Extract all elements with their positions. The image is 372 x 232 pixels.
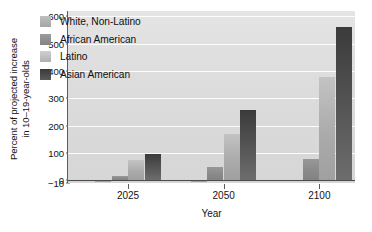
y-axis-title: Percent of projected increase in 10–19-y… [0, 0, 40, 195]
gridline [68, 98, 355, 99]
gridline [68, 126, 355, 127]
x-axis-tick-label: 2100 [294, 190, 344, 201]
y-axis-tick-label: 100 [36, 147, 64, 158]
x-axis-tick-mark [319, 184, 320, 189]
legend-label: Latino [60, 51, 87, 62]
legend-swatch-icon [40, 34, 51, 45]
y-axis-tick-label: −10 [36, 178, 64, 189]
y-axis-tick-label: 300 [36, 93, 64, 104]
legend-swatch-icon [40, 69, 51, 80]
y-axis-title-line-2: in 10–19-year-olds [20, 60, 32, 138]
bar-chart-figure: Percent of projected increase in 10–19-y… [0, 0, 372, 232]
y-axis-tick-label: 200 [36, 120, 64, 131]
gridline [68, 153, 355, 154]
zero-baseline [68, 180, 355, 181]
chart-legend: White, Non-LatinoAfrican AmericanLatinoA… [40, 13, 190, 83]
bar [240, 110, 256, 180]
bar [336, 27, 352, 180]
x-axis-tick-mark [128, 184, 129, 189]
bar [319, 77, 335, 181]
bar [145, 154, 161, 180]
legend-item: Latino [40, 48, 190, 66]
bar [303, 159, 319, 180]
legend-item: Asian American [40, 66, 190, 84]
legend-item: African American [40, 31, 190, 49]
y-axis-title-line-1: Percent of projected increase [8, 38, 20, 160]
x-axis-title: Year [68, 208, 355, 219]
x-axis-tick-mark [224, 184, 225, 189]
x-axis-tick-label: 2025 [103, 190, 153, 201]
legend-label: White, Non-Latino [60, 16, 141, 27]
bar [128, 160, 144, 180]
bar [207, 167, 223, 180]
legend-swatch-icon [40, 51, 51, 62]
legend-swatch-icon [40, 16, 51, 27]
legend-label: Asian American [60, 69, 130, 80]
x-axis-tick-label: 2050 [199, 190, 249, 201]
legend-label: African American [60, 34, 136, 45]
legend-item: White, Non-Latino [40, 13, 190, 31]
bar [224, 134, 240, 180]
